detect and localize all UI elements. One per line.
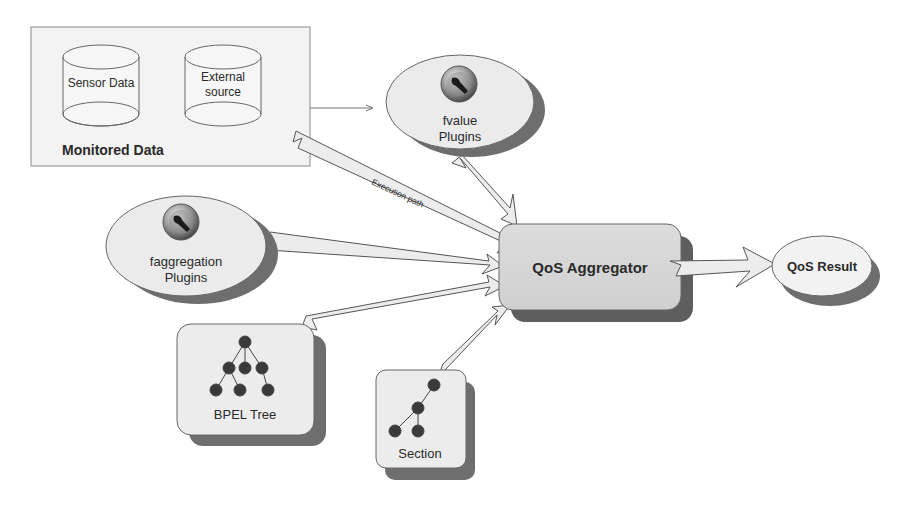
- edge-monitored-to-fvalue: [310, 105, 373, 111]
- section-node[interactable]: Section: [376, 370, 475, 480]
- qos-aggregator-node[interactable]: QoS Aggregator: [499, 224, 693, 322]
- fvalue-label-line1: fvalue: [443, 113, 478, 128]
- monitored-data-panel: Sensor Data External source Monitored Da…: [31, 27, 310, 166]
- monitored-data-title: Monitored Data: [62, 142, 164, 158]
- diagram-canvas: Sensor Data External source Monitored Da…: [0, 0, 910, 517]
- faggregation-label-line1: faggregation: [150, 254, 222, 269]
- sensor-data-label: Sensor Data: [68, 76, 135, 90]
- wrench-plugin-icon: [163, 204, 199, 240]
- external-source-store: External source: [185, 45, 261, 126]
- bpel-tree-node[interactable]: BPEL Tree: [177, 324, 326, 446]
- section-label: Section: [398, 446, 441, 461]
- sensor-data-store: Sensor Data: [63, 45, 139, 126]
- faggregation-plugins-node[interactable]: faggregation Plugins: [106, 196, 278, 304]
- qos-result-label: QoS Result: [787, 259, 858, 274]
- faggregation-label-line2: Plugins: [165, 270, 208, 285]
- bpel-tree-label: BPEL Tree: [214, 407, 276, 422]
- edge-bpel-to-aggregator: [302, 275, 505, 330]
- qos-result-node[interactable]: QoS Result: [772, 236, 880, 306]
- fvalue-plugins-node[interactable]: fvalue Plugins: [386, 55, 545, 157]
- wrench-plugin-icon: [441, 66, 477, 102]
- fvalue-label-line2: Plugins: [439, 129, 482, 144]
- qos-aggregator-label: QoS Aggregator: [532, 259, 647, 276]
- external-source-label-line1: External: [201, 70, 245, 84]
- edge-faggregation-to-aggregator: [260, 232, 503, 274]
- external-source-label-line2: source: [205, 85, 241, 99]
